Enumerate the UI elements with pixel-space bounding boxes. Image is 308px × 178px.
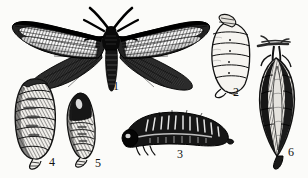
figure-label-1: 1 — [113, 80, 119, 92]
figure-label-3: 3 — [177, 148, 183, 160]
figure-label-5: 5 — [95, 157, 101, 169]
figure-label-2: 2 — [233, 86, 239, 98]
plate-artwork — [0, 0, 308, 178]
figure-label-6: 6 — [288, 146, 294, 158]
illustration-plate: 1 2 3 4 5 6 — [0, 0, 308, 178]
figure-label-4: 4 — [49, 156, 55, 168]
